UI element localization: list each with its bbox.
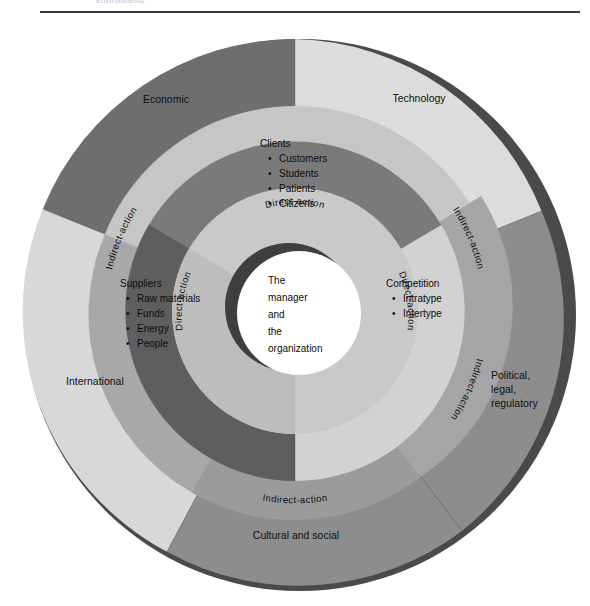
- center-circle: [237, 251, 361, 375]
- list-item: •: [268, 153, 272, 164]
- inner-heading-competition: Competition: [386, 278, 439, 289]
- environment-rings-diagram: Economic Technology Political, legal, re…: [0, 16, 590, 606]
- outer-label-political-line3: regulatory: [491, 397, 538, 409]
- center-line-3: and: [268, 309, 285, 320]
- center-line-4: the: [268, 326, 282, 337]
- list-item-label: People: [137, 338, 169, 349]
- list-item: •: [268, 183, 272, 194]
- outer-label-technology: Technology: [392, 92, 446, 104]
- outer-label-political-line2: legal,: [491, 383, 516, 395]
- header-rule: [40, 11, 580, 13]
- running-head: Environments: [96, 0, 396, 7]
- list-item: •: [268, 168, 272, 179]
- inner-heading-clients: Clients: [260, 138, 291, 149]
- list-item-label: Students: [279, 168, 318, 179]
- list-item-label: Patients: [279, 183, 315, 194]
- list-item: •: [126, 338, 130, 349]
- list-item-label: Energy: [137, 323, 169, 334]
- list-item: •: [392, 293, 396, 304]
- center-line-2: manager: [268, 292, 308, 303]
- center-line-5: organization: [268, 343, 322, 354]
- list-item: •: [126, 323, 130, 334]
- center-line-1: The: [268, 275, 286, 286]
- list-item: •: [392, 308, 396, 319]
- list-item: •: [126, 308, 130, 319]
- list-item: •: [268, 198, 272, 209]
- inner-heading-suppliers: Suppliers: [120, 278, 162, 289]
- list-item-label: Raw materials: [137, 293, 200, 304]
- list-item-label: Intertype: [403, 308, 442, 319]
- list-item-label: Funds: [137, 308, 165, 319]
- outer-label-political-line1: Political,: [491, 369, 530, 381]
- outer-label-cultural: Cultural and social: [253, 529, 339, 541]
- list-item-label: Citizens: [279, 198, 315, 209]
- outer-label-international: International: [66, 375, 124, 387]
- outer-label-economic: Economic: [143, 93, 189, 105]
- list-item: •: [126, 293, 130, 304]
- list-item-label: Customers: [279, 153, 327, 164]
- list-item-label: Intratype: [403, 293, 442, 304]
